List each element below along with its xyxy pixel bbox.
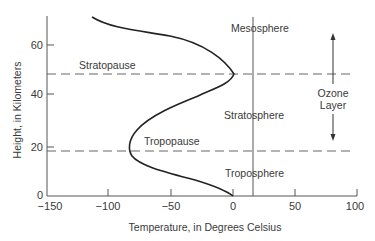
y-ticks [47, 45, 54, 147]
ozone-label-line1: Ozone [318, 87, 349, 99]
stratopause-label: Stratopause [79, 59, 136, 71]
mesosphere-label: Mesosphere [231, 22, 289, 34]
x-tick-neg100: −100 [96, 200, 121, 212]
x-tick-50: 50 [289, 200, 301, 212]
y-tick-40: 40 [31, 88, 43, 100]
x-tick-0: 0 [230, 200, 236, 212]
temperature-curve [92, 17, 234, 196]
stratosphere-label: Stratosphere [224, 109, 284, 121]
ozone-label-line2: Layer [320, 99, 347, 111]
x-axis-title: Temperature, in Degrees Celsius [129, 221, 282, 233]
x-tick-neg50: −50 [162, 200, 181, 212]
y-tick-20: 20 [31, 141, 43, 153]
x-tick-neg150: −150 [38, 200, 63, 212]
y-axis-title: Height, in Kilometers [11, 62, 23, 159]
x-tick-100: 100 [346, 200, 364, 212]
y-tick-60: 60 [31, 39, 43, 51]
troposphere-label: Troposphere [225, 167, 284, 179]
temperature-height-chart: 0 20 40 60 −150 −100 −50 0 50 100 Temper… [0, 0, 375, 241]
tropopause-label: Tropopause [144, 135, 200, 147]
